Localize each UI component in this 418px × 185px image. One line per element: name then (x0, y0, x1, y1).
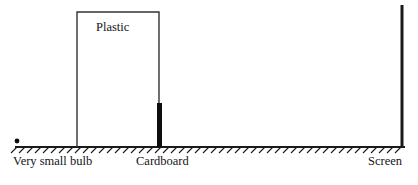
optics-diagram: Plastic Very small bulb Cardboard Screen (0, 0, 418, 185)
ground-group (11, 147, 405, 153)
plastic-label: Plastic (96, 21, 129, 34)
cardboard-label: Cardboard (136, 155, 189, 168)
screen-label: Screen (368, 155, 402, 168)
cardboard-barrier-shape (157, 103, 162, 147)
ground-hatch-tick (11, 147, 17, 153)
very-small-bulb-icon (15, 139, 20, 144)
very-small-bulb-label: Very small bulb (13, 155, 92, 168)
